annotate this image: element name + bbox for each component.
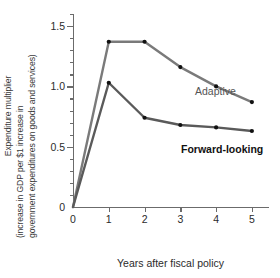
series-label-adaptive: Adaptive (195, 85, 236, 97)
marker-forward-looking-year-2 (142, 116, 146, 120)
marker-forward-looking-year-3 (178, 123, 182, 127)
marker-adaptive-year-1 (107, 40, 111, 44)
plot-area: 00.51.01.5 012345 Adaptive Forward-looki… (73, 14, 268, 207)
series-lines (73, 14, 273, 214)
x-tick-label-5: 5 (249, 213, 255, 225)
y-tick-label-0: 0 (59, 201, 65, 213)
marker-forward-looking-year-4 (214, 125, 218, 129)
x-tick-label-0: 0 (70, 213, 76, 225)
x-tick-label-3: 3 (177, 213, 183, 225)
y-tick-label-1.0: 1.0 (50, 80, 65, 92)
marker-forward-looking-year-1 (107, 81, 111, 85)
y-axis-title-line-1: Expenditure multiplier (4, 0, 13, 232)
y-axis-title-line-3: government expenditures on goods and ser… (28, 0, 37, 238)
marker-forward-looking-year-5 (250, 129, 254, 133)
y-axis-title-line-2: (increase in GDP per $1 increase in (16, 0, 25, 238)
chart-figure: Expenditure multiplier (increase in GDP … (0, 0, 280, 278)
marker-adaptive-year-2 (142, 40, 146, 44)
y-tick-label-0.5: 0.5 (50, 141, 65, 153)
y-axis-title: Expenditure multiplier (increase in GDP … (0, 0, 52, 238)
series-label-forward-looking: Forward-looking (181, 143, 263, 155)
x-tick-label-2: 2 (142, 213, 148, 225)
x-tick-label-1: 1 (106, 213, 112, 225)
marker-adaptive-year-5 (250, 100, 254, 104)
x-axis-title: Years after fiscal policy (73, 257, 268, 269)
y-tick-label-1.5: 1.5 (50, 20, 65, 32)
marker-adaptive-year-3 (178, 65, 182, 69)
x-tick-label-4: 4 (213, 213, 219, 225)
line-adaptive (73, 42, 252, 207)
